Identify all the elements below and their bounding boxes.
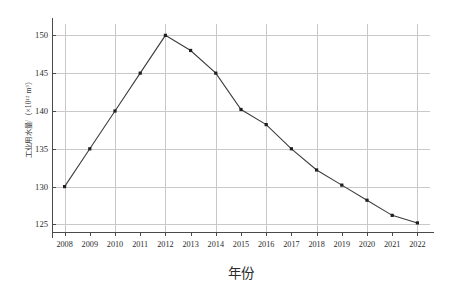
y-axis-tick-label: 135 — [22, 144, 48, 154]
data-point-marker — [416, 221, 419, 224]
x-axis-tick-mark — [241, 232, 242, 236]
x-axis-tick-mark — [65, 232, 66, 236]
data-point-marker — [113, 109, 116, 112]
x-axis-tick-mark — [165, 232, 166, 236]
x-axis-tick-mark — [392, 232, 393, 236]
y-axis-tick-label: 145 — [22, 68, 48, 78]
data-point-marker — [214, 72, 217, 75]
data-point-marker — [139, 72, 142, 75]
data-point-marker — [164, 34, 167, 37]
x-axis-tick-mark — [216, 232, 217, 236]
x-axis-tick-mark — [140, 232, 141, 236]
y-axis-tick-mark — [52, 224, 56, 225]
data-point-marker — [340, 184, 343, 187]
x-axis-tick-mark — [115, 232, 116, 236]
x-axis-tick-label: 2022 — [397, 240, 437, 249]
data-point-marker — [391, 214, 394, 217]
data-point-marker — [63, 185, 66, 188]
y-axis-tick-label: 140 — [22, 106, 48, 116]
data-point-marker — [365, 199, 368, 202]
x-axis-tick-mark — [317, 232, 318, 236]
y-axis-tick-label: 150 — [22, 30, 48, 40]
x-axis-tick-mark — [291, 232, 292, 236]
y-axis-tick-label: 130 — [22, 182, 48, 192]
data-point-marker — [189, 49, 192, 52]
data-point-marker — [239, 108, 242, 111]
y-axis-tick-label: 125 — [22, 219, 48, 229]
y-axis-tick-mark — [52, 35, 56, 36]
data-point-marker — [315, 168, 318, 171]
data-point-marker — [265, 123, 268, 126]
x-axis-tick-mark — [266, 232, 267, 236]
data-point-marker — [290, 147, 293, 150]
x-axis-tick-mark — [90, 232, 91, 236]
x-axis-tick-mark — [342, 232, 343, 236]
x-axis-tick-mark — [191, 232, 192, 236]
data-series-layer — [52, 24, 430, 232]
y-axis-tick-mark — [52, 73, 56, 74]
data-point-marker — [88, 147, 91, 150]
series-line — [65, 35, 418, 223]
y-axis-tick-labels: 125130135140145150 — [20, 24, 48, 232]
x-axis-tick-mark — [367, 232, 368, 236]
x-axis-tick-mark — [417, 232, 418, 236]
x-axis-title: 年份 — [52, 262, 430, 282]
y-axis-tick-mark — [52, 187, 56, 188]
x-axis-tick-labels: 2008200920102011201220132014201520162017… — [52, 234, 430, 254]
line-chart-figure: 工业用水量/（×10¹² m³） 125130135140145150 2008… — [0, 0, 454, 290]
y-axis-tick-mark — [52, 111, 56, 112]
y-axis-tick-mark — [52, 149, 56, 150]
